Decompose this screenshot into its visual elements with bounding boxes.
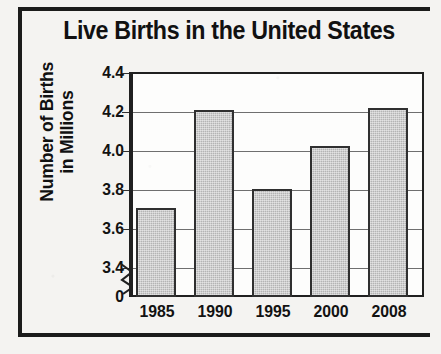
x-tick-label-2008: 2008 <box>362 302 416 322</box>
bar-series <box>131 72 424 297</box>
y-tick-3-6 <box>122 229 129 230</box>
frame-left-rule <box>18 7 22 337</box>
y-tick-label-4-0: 4.0 <box>82 141 124 161</box>
y-axis-tick-labels: 4.4 4.2 4.0 3.8 3.6 3.4 0 <box>72 0 124 354</box>
y-tick-4-0 <box>122 151 129 152</box>
y-tick-label-4-4: 4.4 <box>82 63 124 83</box>
y-tick-4-2 <box>122 112 129 113</box>
bar-2008[interactable] <box>368 108 408 297</box>
bar-2000[interactable] <box>310 146 350 297</box>
x-tick-label-2000: 2000 <box>304 302 358 322</box>
y-tick-label-4-2: 4.2 <box>82 102 124 122</box>
bar-1985[interactable] <box>136 208 176 297</box>
x-axis-tick-labels: 1985 1990 1995 2000 2008 <box>131 302 431 330</box>
bar-1995[interactable] <box>252 189 292 297</box>
bar-1990[interactable] <box>194 110 234 297</box>
x-tick-label-1985: 1985 <box>130 302 184 322</box>
y-axis-title-line-1: Number of Births <box>37 62 57 202</box>
x-tick-label-1995: 1995 <box>246 302 300 322</box>
y-tick-label-3-8: 3.8 <box>82 180 124 200</box>
y-tick-label-3-6: 3.6 <box>82 219 124 239</box>
x-tick-label-1990: 1990 <box>188 302 242 322</box>
y-tick-4-4 <box>122 73 129 74</box>
y-tick-3-8 <box>122 190 129 191</box>
